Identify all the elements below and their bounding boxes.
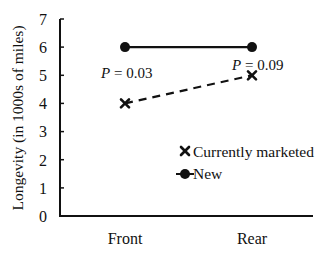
annotation-front: P = 0.03: [100, 65, 152, 81]
ytick-2: 2: [39, 152, 47, 169]
circle-marker-icon: [120, 42, 130, 52]
y-axis-label: Longevity (in 1000s of miles): [9, 25, 27, 210]
x-marker-icon: [181, 147, 189, 155]
x-category-rear: Rear: [237, 230, 268, 247]
legend: Currently marketed New: [176, 143, 314, 182]
chart: 0 1 2 3 4 5 6 7 Longevity (in 1000s of m…: [0, 0, 330, 255]
legend-label-new: New: [193, 165, 223, 182]
annotation-rear: P = 0.09: [231, 57, 283, 73]
series-new: [120, 42, 257, 52]
x-category-front: Front: [108, 230, 143, 247]
circle-marker-icon: [247, 42, 257, 52]
y-tick-labels: 0 1 2 3 4 5 6 7: [39, 11, 47, 225]
ytick-0: 0: [39, 208, 47, 225]
legend-item-currently-marketed: Currently marketed: [181, 143, 314, 160]
ytick-4: 4: [39, 95, 47, 112]
ytick-7: 7: [39, 11, 47, 28]
legend-label-currently-marketed: Currently marketed: [193, 143, 314, 160]
ytick-1: 1: [39, 180, 47, 197]
ytick-5: 5: [39, 67, 47, 84]
legend-item-new: New: [176, 165, 223, 182]
ytick-6: 6: [39, 39, 47, 56]
ytick-3: 3: [39, 123, 47, 140]
circle-marker-icon: [180, 169, 190, 179]
